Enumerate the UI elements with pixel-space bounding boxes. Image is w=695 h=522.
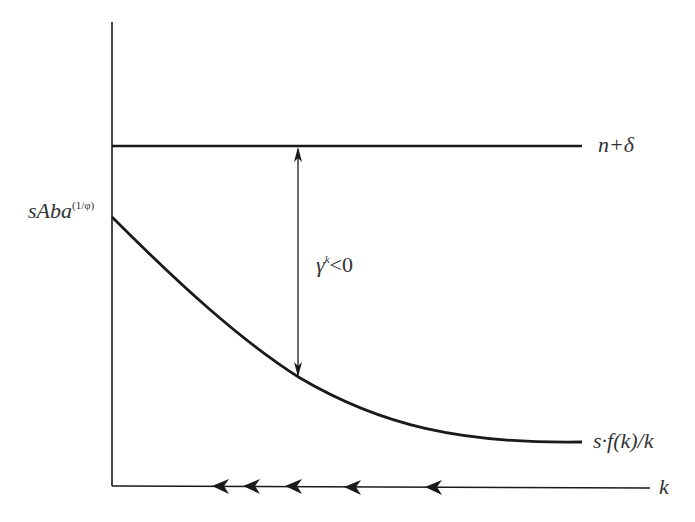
x-axis: [112, 486, 650, 488]
savings-curve-text: s·f(k)/k: [593, 428, 653, 453]
y-intercept-label-sup: (1/φ): [72, 199, 94, 211]
gap-label-base: γ: [316, 252, 325, 277]
savings-curve: [112, 217, 582, 442]
x-axis-label-text: k: [659, 474, 669, 499]
savings-curve-label: s·f(k)/k: [593, 428, 653, 454]
gap-label: γk<0: [316, 252, 353, 278]
gap-label-rest: <0: [330, 252, 353, 277]
n-plus-delta-text: n+δ: [598, 132, 634, 157]
y-intercept-label-base: sAba: [28, 198, 72, 223]
x-axis-label: k: [659, 474, 669, 500]
n-plus-delta-label: n+δ: [598, 132, 634, 158]
y-intercept-label: sAba(1/φ): [28, 198, 94, 224]
